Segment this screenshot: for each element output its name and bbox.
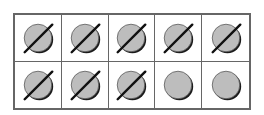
crossed-circle-icon xyxy=(207,19,245,57)
ten-frame-cell xyxy=(62,15,109,62)
crossed-circle-icon xyxy=(159,19,197,57)
crossed-circle-icon xyxy=(66,66,104,104)
crossed-circle-icon xyxy=(19,19,57,57)
circle-icon xyxy=(207,66,245,104)
ten-frame-cell xyxy=(202,62,249,109)
ten-frame-cell xyxy=(109,15,156,62)
crossed-circle-icon xyxy=(66,19,104,57)
crossed-circle-icon xyxy=(112,66,150,104)
ten-frame-cell xyxy=(109,62,156,109)
ten-frame xyxy=(13,13,251,110)
crossed-circle-icon xyxy=(112,19,150,57)
ten-frame-cell xyxy=(15,15,62,62)
ten-frame-cell xyxy=(155,62,202,109)
ten-frame-cell xyxy=(15,62,62,109)
ten-frame-cell xyxy=(62,62,109,109)
ten-frame-cell xyxy=(202,15,249,62)
crossed-circle-icon xyxy=(19,66,57,104)
circle-icon xyxy=(159,66,197,104)
ten-frame-cell xyxy=(155,15,202,62)
